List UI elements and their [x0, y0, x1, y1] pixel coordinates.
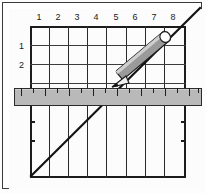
figure-canvas: 1 2 3 4 5 6 7 8 1 2	[0, 0, 206, 193]
grid-axis-top	[30, 26, 186, 28]
ruler-tick	[117, 88, 118, 96]
row-label-1: 1	[14, 41, 24, 51]
ruler-tick	[21, 88, 22, 96]
ruler-tick	[45, 88, 46, 96]
column-label-7: 7	[147, 12, 161, 22]
grid-edge-tick	[181, 140, 186, 142]
column-label-5: 5	[109, 12, 123, 22]
row-label-2: 2	[14, 60, 24, 70]
ruler-tick	[129, 88, 130, 93]
ruler-tick	[165, 88, 166, 96]
grid-hline	[30, 83, 186, 84]
ruler-tick	[81, 88, 82, 93]
column-label-3: 3	[70, 12, 84, 22]
ruler-tick	[57, 88, 58, 93]
column-label-6: 6	[128, 12, 142, 22]
ruler-tick	[105, 88, 106, 93]
ruler-tick	[93, 88, 94, 96]
grid-hline	[30, 45, 186, 46]
ruler-tick	[33, 88, 34, 93]
column-label-4: 4	[89, 12, 103, 22]
ruler[interactable]	[14, 88, 202, 106]
ruler-tick	[198, 88, 199, 93]
column-label-2: 2	[51, 12, 65, 22]
grid-edge-tick	[30, 140, 35, 142]
column-label-1: 1	[32, 12, 46, 22]
ruler-tick	[141, 88, 142, 96]
ruler-tick	[153, 88, 154, 93]
grid-edge-tick	[30, 121, 35, 123]
column-label-8: 8	[166, 12, 180, 22]
ruler-tick	[189, 88, 190, 96]
ruler-tick	[177, 88, 178, 93]
grid-hline	[30, 64, 186, 65]
grid-edge-tick	[181, 121, 186, 123]
grid-axis-bottom	[30, 176, 186, 178]
ruler-tick	[69, 88, 70, 96]
